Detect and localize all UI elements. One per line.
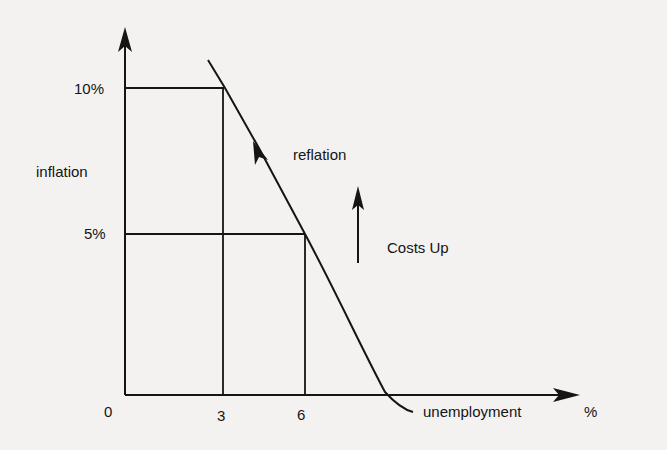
costs-up-label: Costs Up (387, 240, 449, 255)
x-tick-6: 6 (297, 407, 305, 422)
x-axis-unit: % (584, 404, 597, 419)
x-axis-label: unemployment (423, 404, 521, 419)
y-tick-5pct: 5% (84, 226, 106, 241)
y-axis-label: inflation (36, 164, 88, 179)
phillips-curve (208, 60, 413, 412)
x-tick-origin: 0 (104, 404, 112, 419)
y-tick-10pct: 10% (74, 81, 104, 96)
reflation-label: reflation (293, 147, 346, 162)
x-tick-3: 3 (217, 408, 225, 423)
